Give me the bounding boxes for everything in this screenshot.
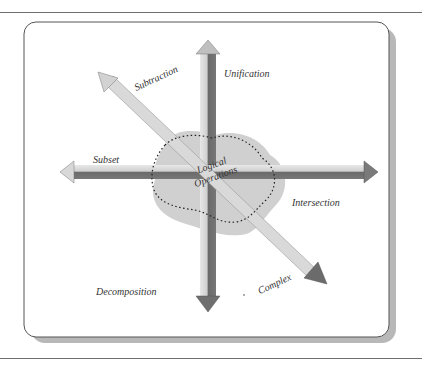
label-subset: Subset xyxy=(93,154,119,165)
label-decomposition: Decomposition xyxy=(95,286,157,297)
logical-operations-diagram: Logical Operations Subtraction Unificati… xyxy=(0,0,422,366)
label-intersection: Intersection xyxy=(291,197,340,208)
label-unification: Unification xyxy=(224,68,270,79)
stray-dot xyxy=(243,294,245,296)
